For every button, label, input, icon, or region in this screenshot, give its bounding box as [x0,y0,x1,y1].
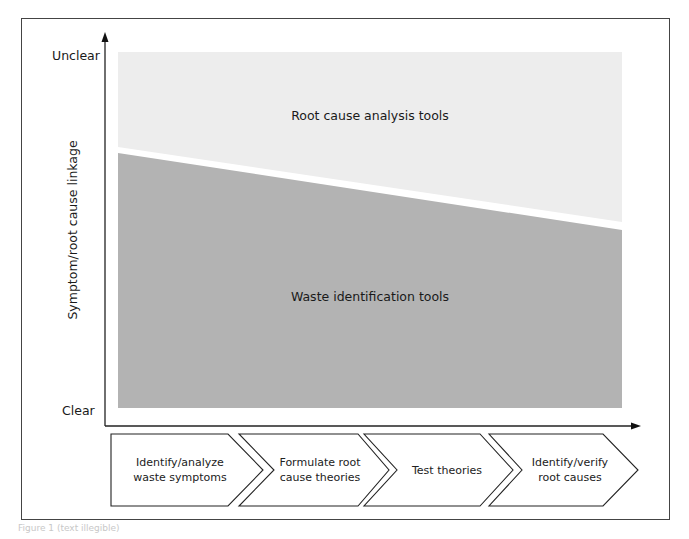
y-axis-title: Symptom/root cause linkage [65,140,80,319]
process-step-3-line1: Test theories [412,463,482,478]
process-step-2-line1: Formulate root [279,455,360,470]
process-step-4-line1: Identify/verify [532,455,608,470]
process-step-2-line2: cause theories [279,470,360,485]
process-step-2-label: Formulate root cause theories [279,455,360,485]
process-step-4-label: Identify/verify root causes [532,455,608,485]
y-axis-bottom-label: Clear [62,403,95,418]
waste-identification-region-label: Waste identification tools [291,289,449,304]
process-step-1-line1: Identify/analyze [133,455,226,470]
process-step-4-line2: root causes [532,470,608,485]
y-axis-top-label: Unclear [52,48,100,63]
process-step-1-label: Identify/analyze waste symptoms [133,455,226,485]
y-axis-arrow-icon [102,32,109,42]
process-step-3-label: Test theories [412,463,482,478]
process-step-1-line2: waste symptoms [133,470,226,485]
x-axis-arrow-icon [631,423,641,430]
figure-caption: Figure 1 (text illegible) [18,523,120,533]
root-cause-region-label: Root cause analysis tools [291,108,449,123]
